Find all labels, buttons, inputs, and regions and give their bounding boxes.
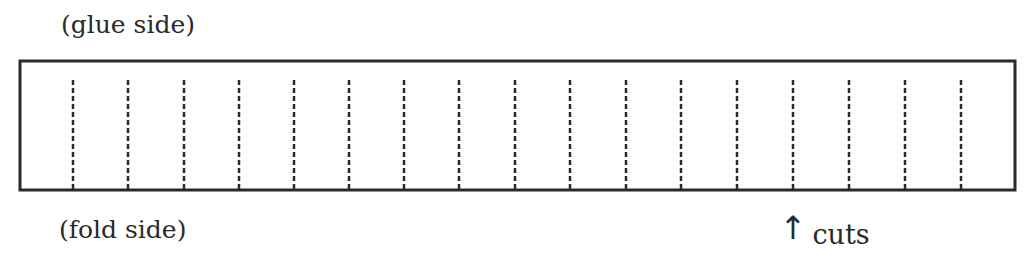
cut-lines-group (73, 80, 961, 190)
cuts-pointer: ↑ cuts (780, 212, 870, 244)
fold-side-label: (fold side) (59, 217, 186, 242)
cuts-label: cuts (812, 221, 869, 248)
up-arrow-icon: ↑ (780, 212, 807, 244)
paper-strip-outline (20, 61, 1015, 190)
